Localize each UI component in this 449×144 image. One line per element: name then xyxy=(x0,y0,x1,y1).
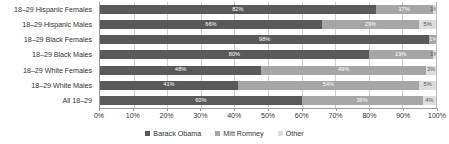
legend-item-barack-obama[interactable]: Barack Obama xyxy=(145,130,201,137)
legend-swatch-icon xyxy=(278,131,283,136)
plot-area: 82%17%1%66%29%5%98%1%1%80%19%1%48%49%3%4… xyxy=(99,2,437,108)
axis-tick-mark xyxy=(167,108,168,111)
axis-tick-mark xyxy=(403,108,404,111)
stacked-bar-chart: 18–29 Hispanic Females 18–29 Hispanic Ma… xyxy=(0,0,449,144)
bar-value-label: 82% xyxy=(232,7,243,13)
category-axis-label: 18–29 White Females xyxy=(0,63,96,78)
axis-tick-mark xyxy=(268,108,269,111)
bar-value-label: 98% xyxy=(259,37,270,43)
bar-value-label: 4% xyxy=(425,98,433,104)
bar-row: 82%17%1% xyxy=(100,2,436,17)
bar-segment[interactable]: 36% xyxy=(302,96,423,105)
bar-row: 48%49%3% xyxy=(100,63,436,78)
bar-segment[interactable]: 80% xyxy=(100,50,369,59)
legend-item-other[interactable]: Other xyxy=(278,130,304,137)
axis-tick-label: 40% xyxy=(227,112,241,119)
stacked-bar[interactable]: 82%17%1% xyxy=(100,5,436,14)
bar-value-label: 36% xyxy=(356,98,367,104)
bar-value-label: 1% xyxy=(429,37,436,43)
axis-tick-mark xyxy=(200,108,201,111)
bar-segment[interactable]: 5% xyxy=(419,81,436,90)
axis-tick-mark xyxy=(437,108,438,111)
bar-segment[interactable]: 1% xyxy=(429,35,436,44)
bar-segment[interactable]: 4% xyxy=(423,96,436,105)
stacked-bar[interactable]: 98%1%1% xyxy=(100,35,436,44)
axis-tick-label: 10% xyxy=(126,112,140,119)
legend-item-mitt-romney[interactable]: Mitt Romney xyxy=(215,130,263,137)
legend-item-label: Other xyxy=(286,130,304,137)
bar-segment[interactable]: 1% xyxy=(433,50,436,59)
axis-tick-label: 100% xyxy=(428,112,446,119)
bar-segment[interactable]: 60% xyxy=(100,96,302,105)
axis-tick-mark xyxy=(302,108,303,111)
axis-tick-label: 30% xyxy=(193,112,207,119)
legend-item-label: Barack Obama xyxy=(153,130,201,137)
bar-row: 66%29%5% xyxy=(100,17,436,32)
bar-value-label: 60% xyxy=(195,98,206,104)
axis-tick-mark xyxy=(99,108,100,111)
axis-tick-mark xyxy=(336,108,337,111)
bar-row: 98%1%1% xyxy=(100,32,436,47)
stacked-bar[interactable]: 80%19%1% xyxy=(100,50,436,59)
axis-tick-mark xyxy=(369,108,370,111)
stacked-bar[interactable]: 41%54%5% xyxy=(100,81,436,90)
bar-value-label: 48% xyxy=(175,67,186,73)
stacked-bar[interactable]: 66%29%5% xyxy=(100,20,436,29)
stacked-bar[interactable]: 48%49%3% xyxy=(100,66,436,75)
category-axis-label: 18–29 Hispanic Females xyxy=(0,2,96,17)
bar-row: 41%54%5% xyxy=(100,78,436,93)
axis-tick-label: 20% xyxy=(160,112,174,119)
axis-tick-mark xyxy=(234,108,235,111)
bar-segment[interactable]: 98% xyxy=(100,35,429,44)
category-axis-label: All 18–29 xyxy=(0,93,96,108)
legend-item-label: Mitt Romney xyxy=(223,130,263,137)
bar-segment[interactable]: 41% xyxy=(100,81,238,90)
bar-segment[interactable]: 49% xyxy=(261,66,426,75)
bar-segment[interactable]: 17% xyxy=(376,5,433,14)
axis-tick-label: 50% xyxy=(261,112,275,119)
bar-value-label: 80% xyxy=(229,52,240,58)
bar-value-label: 66% xyxy=(205,22,216,28)
category-axis-label: 18–29 White Males xyxy=(0,78,96,93)
bar-segment[interactable]: 48% xyxy=(100,66,261,75)
bar-segment[interactable]: 19% xyxy=(369,50,433,59)
bar-segment[interactable]: 82% xyxy=(100,5,376,14)
axis-tick-mark xyxy=(133,108,134,111)
bar-value-label: 17% xyxy=(398,7,409,13)
category-axis-label: 18–29 Black Males xyxy=(0,47,96,62)
category-axis-label: 18–29 Black Females xyxy=(0,32,96,47)
axis-tick-label: 60% xyxy=(295,112,309,119)
bar-value-label: 5% xyxy=(424,22,432,28)
axis-tick-label: 0% xyxy=(94,112,104,119)
bar-value-label: 3% xyxy=(427,67,435,73)
bar-segment[interactable]: 54% xyxy=(238,81,419,90)
axis-tick-label: 70% xyxy=(329,112,343,119)
bar-value-label: 41% xyxy=(163,82,174,88)
bar-value-label: 5% xyxy=(424,82,432,88)
bar-segment[interactable]: 66% xyxy=(100,20,322,29)
bar-value-label: 54% xyxy=(323,82,334,88)
bar-value-label: 49% xyxy=(338,67,349,73)
bar-value-label: 29% xyxy=(365,22,376,28)
category-axis: 18–29 Hispanic Females 18–29 Hispanic Ma… xyxy=(0,2,96,108)
category-axis-label: 18–29 Hispanic Males xyxy=(0,17,96,32)
legend-swatch-icon xyxy=(215,131,220,136)
bar-segment[interactable]: 1% xyxy=(433,5,436,14)
legend-swatch-icon xyxy=(145,131,150,136)
axis-tick-label: 80% xyxy=(362,112,376,119)
bar-rows: 82%17%1%66%29%5%98%1%1%80%19%1%48%49%3%4… xyxy=(100,2,436,108)
bar-segment[interactable]: 3% xyxy=(426,66,436,75)
value-axis: 0%10%20%30%40%50%60%70%80%90%100% xyxy=(99,108,437,122)
bar-segment[interactable]: 5% xyxy=(419,20,436,29)
stacked-bar[interactable]: 60%36%4% xyxy=(100,96,436,105)
axis-tick-label: 90% xyxy=(396,112,410,119)
chart-legend: Barack Obama Mitt Romney Other xyxy=(0,127,449,141)
bar-segment[interactable]: 29% xyxy=(322,20,419,29)
bar-value-label: 19% xyxy=(395,52,406,58)
bar-row: 60%36%4% xyxy=(100,93,436,108)
bar-row: 80%19%1% xyxy=(100,47,436,62)
